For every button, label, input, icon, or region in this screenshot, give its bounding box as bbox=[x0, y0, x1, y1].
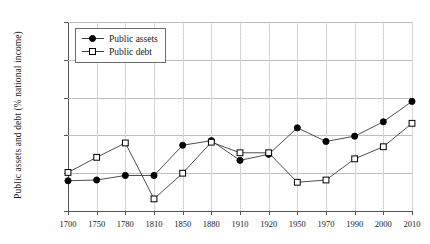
data-point-filled-circle bbox=[237, 157, 243, 163]
x-tick-label: 1700 bbox=[60, 219, 77, 229]
data-point-filled-circle bbox=[94, 177, 100, 183]
data-point-open-square bbox=[94, 154, 100, 160]
data-point-open-square bbox=[65, 170, 71, 176]
legend-item-public-debt: Public debt bbox=[82, 45, 158, 58]
chart-legend: Public assets Public debt bbox=[75, 28, 166, 63]
data-point-filled-circle bbox=[352, 133, 358, 139]
filled-circle-icon bbox=[82, 33, 104, 44]
series-line bbox=[68, 101, 412, 180]
x-tick-label: 1880 bbox=[203, 219, 220, 229]
data-point-open-square bbox=[208, 139, 214, 145]
data-point-open-square bbox=[380, 144, 386, 150]
x-tick-label: 2000 bbox=[375, 219, 392, 229]
x-tick-label: 1780 bbox=[117, 219, 134, 229]
x-tick-label: 1950 bbox=[289, 219, 306, 229]
data-point-open-square bbox=[151, 196, 157, 202]
data-point-open-square bbox=[266, 150, 272, 156]
data-point-open-square bbox=[237, 150, 243, 156]
x-tick-label: 1850 bbox=[174, 219, 191, 229]
data-point-open-square bbox=[180, 170, 186, 176]
data-point-filled-circle bbox=[380, 119, 386, 125]
legend-item-public-assets: Public assets bbox=[82, 32, 158, 45]
x-tick-label: 1750 bbox=[88, 219, 105, 229]
data-point-filled-circle bbox=[65, 178, 71, 184]
chart-container: Public assets and debt (% national incom… bbox=[0, 0, 430, 244]
data-point-open-square bbox=[409, 120, 415, 126]
data-point-open-square bbox=[294, 179, 300, 185]
y-axis-title: Public assets and debt (% national incom… bbox=[13, 5, 23, 225]
x-tick-label: 1990 bbox=[346, 219, 363, 229]
open-square-icon bbox=[82, 46, 104, 57]
x-tick-label: 1970 bbox=[318, 219, 335, 229]
data-point-filled-circle bbox=[151, 172, 157, 178]
x-tick-label: 1810 bbox=[146, 219, 163, 229]
legend-label-public-assets: Public assets bbox=[109, 34, 158, 44]
x-tick-label: 1920 bbox=[260, 219, 277, 229]
data-point-open-square bbox=[122, 140, 128, 146]
legend-label-public-debt: Public debt bbox=[109, 47, 152, 57]
data-point-open-square bbox=[352, 156, 358, 162]
data-point-filled-circle bbox=[409, 98, 415, 104]
data-point-open-square bbox=[323, 177, 329, 183]
x-tick-label: 1910 bbox=[232, 219, 249, 229]
data-point-filled-circle bbox=[122, 172, 128, 178]
data-point-filled-circle bbox=[294, 125, 300, 131]
data-point-filled-circle bbox=[323, 138, 329, 144]
data-point-filled-circle bbox=[180, 142, 186, 148]
x-tick-label: 2010 bbox=[404, 219, 421, 229]
